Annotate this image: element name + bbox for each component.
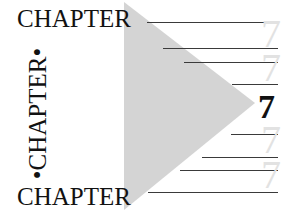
horizontal-rule (148, 192, 278, 193)
chapter-opener-page: 77777 CHAPTER •CHAPTER• CHAPTER (0, 0, 290, 220)
ghost-chapter-number: 7 (261, 48, 281, 88)
horizontal-rule (147, 22, 278, 23)
right-pointing-triangle-icon (124, 2, 255, 210)
chapter-label-top: CHAPTER (17, 6, 131, 31)
ghost-chapter-number: 7 (261, 155, 281, 195)
chapter-label-vertical: •CHAPTER• (25, 29, 50, 199)
chapter-label-bottom: CHAPTER (17, 184, 131, 209)
chapter-number: 7 (258, 90, 275, 124)
